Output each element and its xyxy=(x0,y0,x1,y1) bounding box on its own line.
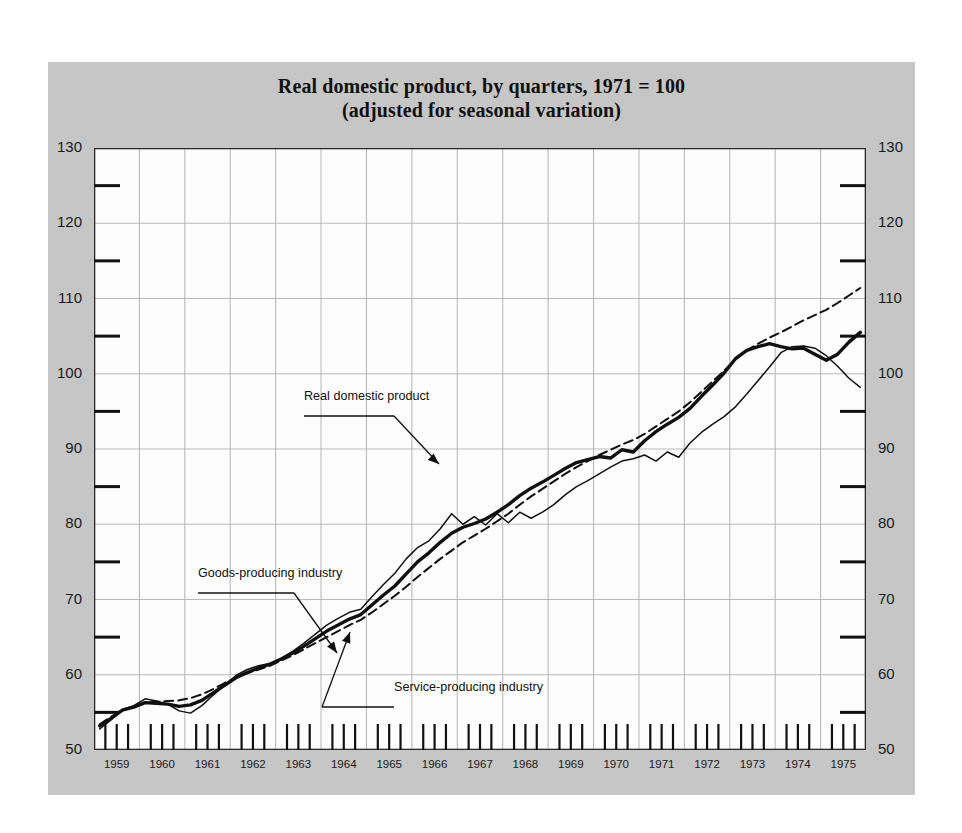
series-line xyxy=(100,288,861,724)
x-axis-tick-label: 1971 xyxy=(639,758,685,770)
x-axis-tick-label: 1974 xyxy=(775,758,821,770)
y-axis-tick-label-left: 120 xyxy=(48,213,82,230)
x-axis-tick-label: 1972 xyxy=(684,758,730,770)
y-axis-tick-label-right: 130 xyxy=(878,138,912,155)
y-axis-tick-label-right: 70 xyxy=(878,590,912,607)
annotation-label-service: Service-producing industry xyxy=(394,680,543,694)
y-axis-tick-label-left: 80 xyxy=(48,514,82,531)
chart-canvas xyxy=(94,148,866,750)
y-axis-tick-label-left: 50 xyxy=(48,740,82,757)
chart-title-line2: (adjusted for seasonal variation) xyxy=(48,98,915,122)
y-axis-tick-label-left: 60 xyxy=(48,665,82,682)
x-axis-tick-label: 1968 xyxy=(502,758,548,770)
x-axis-tick-label: 1965 xyxy=(366,758,412,770)
x-axis-tick-label: 1973 xyxy=(729,758,775,770)
x-axis-tick-label: 1967 xyxy=(457,758,503,770)
chart-title-line1: Real domestic product, by quarters, 1971… xyxy=(278,75,685,97)
chart-title: Real domestic product, by quarters, 1971… xyxy=(48,74,915,122)
x-axis-tick-label: 1975 xyxy=(820,758,866,770)
y-axis-tick-label-right: 120 xyxy=(878,213,912,230)
chart-figure: Real domestic product, by quarters, 1971… xyxy=(48,62,915,795)
y-axis-tick-label-right: 80 xyxy=(878,514,912,531)
plot-area xyxy=(94,148,866,750)
y-axis-tick-label-left: 100 xyxy=(48,364,82,381)
x-axis-tick-label: 1963 xyxy=(275,758,321,770)
x-axis-tick-label: 1966 xyxy=(412,758,458,770)
y-axis-tick-label-right: 100 xyxy=(878,364,912,381)
x-axis-tick-label: 1969 xyxy=(548,758,594,770)
x-axis-tick-label: 1962 xyxy=(230,758,276,770)
x-axis-tick-label: 1964 xyxy=(321,758,367,770)
y-axis-tick-label-left: 90 xyxy=(48,439,82,456)
annotation-label-rdp: Real domestic product xyxy=(304,389,429,403)
y-axis-tick-label-right: 110 xyxy=(878,289,912,306)
y-axis-tick-label-right: 90 xyxy=(878,439,912,456)
annotation-label-goods: Goods-producing industry xyxy=(198,566,342,580)
x-axis-tick-label: 1961 xyxy=(185,758,231,770)
series-line xyxy=(100,332,861,726)
y-axis-tick-label-right: 60 xyxy=(878,665,912,682)
y-axis-tick-label-right: 50 xyxy=(878,740,912,757)
y-axis-tick-label-left: 70 xyxy=(48,590,82,607)
y-axis-tick-label-left: 110 xyxy=(48,289,82,306)
x-axis-tick-label: 1959 xyxy=(94,758,140,770)
x-axis-tick-label: 1960 xyxy=(139,758,185,770)
x-axis-tick-label: 1970 xyxy=(593,758,639,770)
y-axis-tick-label-left: 130 xyxy=(48,138,82,155)
series-line xyxy=(100,346,861,729)
